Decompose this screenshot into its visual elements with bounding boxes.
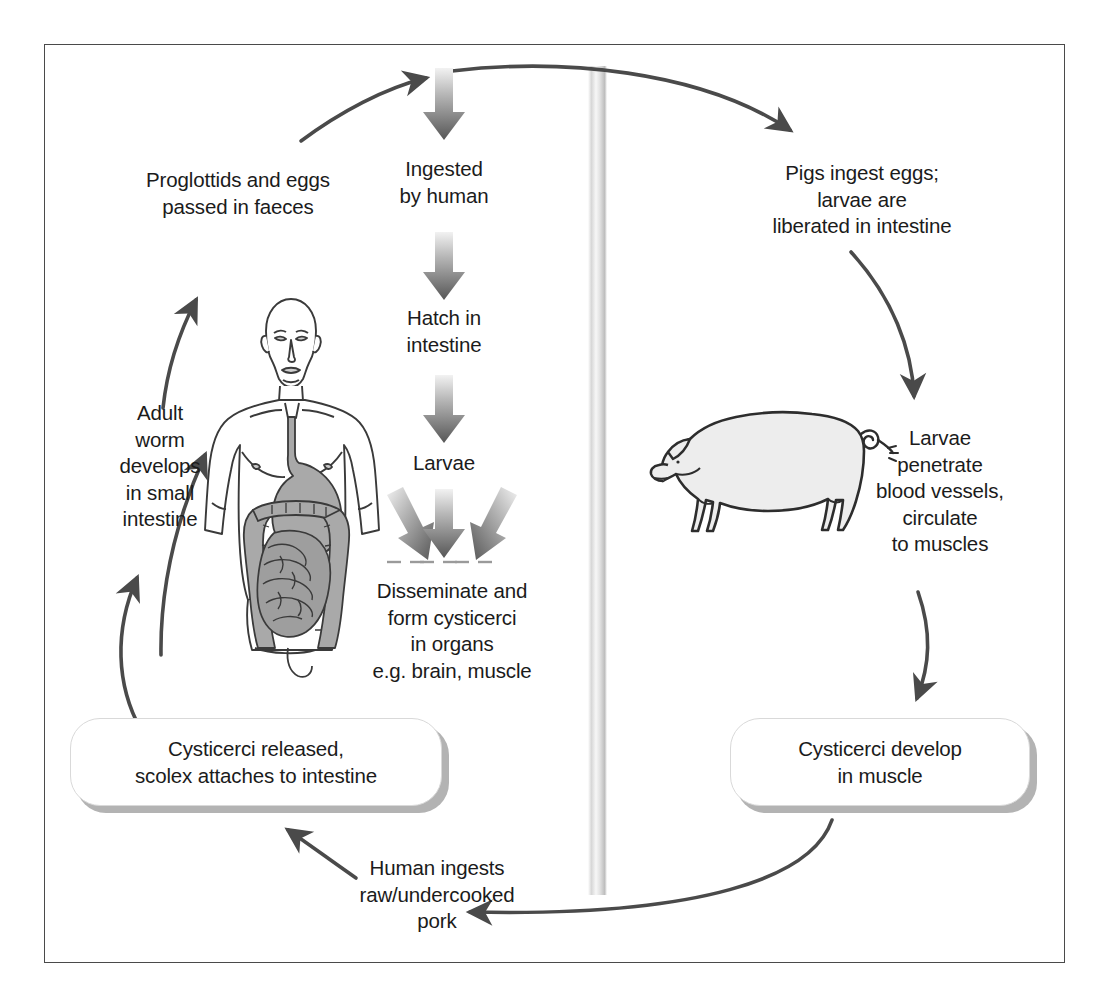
box-cysticerci-released: Cysticerci released, scolex attaches to … [70, 718, 442, 806]
label-disseminate: Disseminate and form cysticerci in organ… [372, 578, 531, 684]
box-cysticerci-develop: Cysticerci develop in muscle [730, 718, 1030, 806]
label-hatch-in-intestine: Hatch in intestine [406, 305, 481, 358]
label-pigs-ingest-eggs: Pigs ingest eggs; larvae are liberated i… [772, 160, 951, 240]
label-larvae-penetrate: Larvae penetrate blood vessels, circulat… [876, 425, 1004, 558]
label-adult-worm: Adult worm develops in small intestine [120, 400, 201, 533]
label-human-ingests-pork: Human ingests raw/undercooked pork [359, 855, 514, 935]
label-proglottids: Proglottids and eggs passed in faeces [146, 167, 330, 220]
box-cysticerci-released-label: Cysticerci released, scolex attaches to … [135, 735, 377, 789]
box-cysticerci-develop-label: Cysticerci develop in muscle [798, 735, 962, 789]
label-larvae: Larvae [413, 450, 475, 477]
label-ingested-by-human: Ingested by human [400, 156, 489, 209]
